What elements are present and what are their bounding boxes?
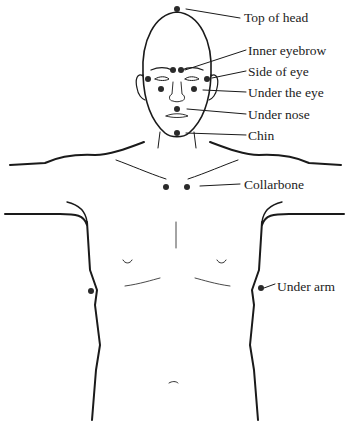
label-chin: Chin bbox=[248, 129, 274, 143]
label-under-the-eye: Under the eye bbox=[248, 86, 324, 100]
point-under-eye-left bbox=[158, 86, 164, 92]
right-arm-underside bbox=[262, 214, 344, 225]
jaw-outline bbox=[143, 75, 211, 137]
point-collarbone-right bbox=[184, 184, 190, 190]
right-torso-side bbox=[250, 222, 262, 420]
label-under-nose: Under nose bbox=[248, 108, 310, 122]
point-side-of-eye-left bbox=[145, 76, 151, 82]
point-side-of-eye-right bbox=[204, 76, 210, 82]
label-under-arm: Under arm bbox=[277, 280, 335, 294]
point-under-eye-right bbox=[191, 86, 197, 92]
right-shoulder bbox=[210, 142, 341, 165]
left-torso-side bbox=[87, 222, 100, 420]
point-collarbone-left bbox=[163, 184, 169, 190]
point-under-nose bbox=[174, 106, 180, 112]
head-outline bbox=[143, 12, 211, 75]
left-shoulder bbox=[10, 142, 144, 165]
label-top-of-head: Top of head bbox=[244, 11, 308, 25]
point-top-of-head bbox=[174, 6, 180, 12]
label-side-of-eye: Side of eye bbox=[248, 65, 309, 79]
point-inner-eyebrow-left bbox=[170, 67, 176, 73]
point-under-arm-left bbox=[88, 288, 94, 294]
point-inner-eyebrow-right bbox=[178, 67, 184, 73]
label-collarbone: Collarbone bbox=[244, 178, 304, 192]
point-chin bbox=[174, 130, 180, 136]
point-under-arm-right bbox=[258, 285, 264, 291]
left-arm-underside bbox=[5, 214, 87, 225]
label-inner-eyebrow: Inner eyebrow bbox=[248, 44, 326, 58]
